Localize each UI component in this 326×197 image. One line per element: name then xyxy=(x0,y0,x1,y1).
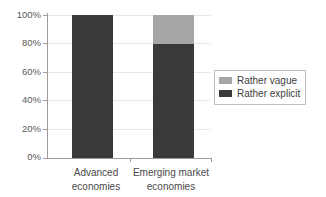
legend-label-rather-vague: Rather vague xyxy=(237,75,297,86)
y-axis-tick-label-20: 20% xyxy=(0,124,41,134)
y-axis-tick-label-80: 80% xyxy=(0,38,41,48)
x-axis-category-label-emerging-market-economies: Emerging market economies xyxy=(117,166,225,193)
legend-swatch-vague-icon xyxy=(219,77,232,84)
y-axis-tick-label-40: 40% xyxy=(0,95,41,105)
bar-advanced-economies xyxy=(72,15,113,158)
category-label-line-1: Emerging market xyxy=(117,166,225,180)
chart-screenshot: 100% 80% 60% 40% 20% 0% Advanced econo xyxy=(0,0,326,197)
legend-swatch-explicit-icon xyxy=(219,90,232,97)
legend-item-rather-vague: Rather vague xyxy=(219,74,300,87)
y-axis-tick-label-100: 100% xyxy=(0,10,41,20)
legend-label-rather-explicit: Rather explicit xyxy=(237,88,300,99)
bar-segment-explicit-emerging xyxy=(153,44,194,158)
x-axis-tick-mark-2 xyxy=(211,158,212,162)
plot-area xyxy=(48,15,211,158)
chart-legend: Rather vague Rather explicit xyxy=(214,70,306,105)
category-label-line-2: economies xyxy=(117,180,225,194)
bar-emerging-market-economies xyxy=(153,15,194,158)
x-axis-tick-mark-1 xyxy=(130,158,131,162)
bar-segment-explicit-advanced xyxy=(72,15,113,158)
legend-item-rather-explicit: Rather explicit xyxy=(219,87,300,100)
y-axis-tick-label-60: 60% xyxy=(0,67,41,77)
y-axis-tick-label-0: 0% xyxy=(0,152,41,162)
bar-segment-vague-emerging xyxy=(153,15,194,44)
